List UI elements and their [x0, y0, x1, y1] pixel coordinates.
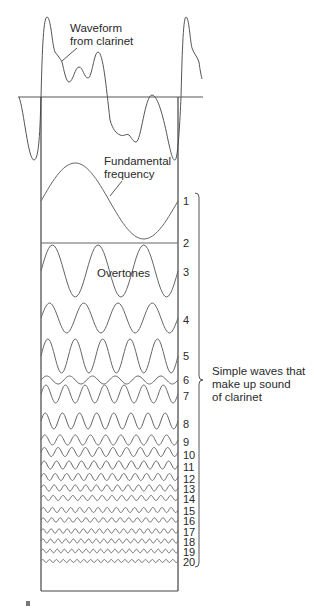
waveform-label-line2: from clarinet — [70, 35, 134, 47]
harmonic-wave-8 — [41, 413, 178, 429]
clarinet-harmonics-diagram: 1234567891011121314151617181920 Waveform… — [0, 0, 314, 608]
harmonic-wave-18 — [41, 539, 178, 543]
harmonic-wave-17 — [41, 529, 178, 533]
harmonic-number-2: 2 — [183, 237, 189, 249]
harmonic-wave-11 — [41, 461, 178, 469]
harmonic-number-1: 1 — [183, 195, 189, 207]
harmonic-wave-12 — [41, 474, 178, 481]
harmonics-bracket — [195, 193, 203, 567]
waveform-leader-line — [62, 48, 77, 61]
fundamental-leader-line — [110, 181, 122, 196]
waveform-label-line1: Waveform — [70, 22, 122, 34]
fundamental-label-line2: frequency — [104, 168, 155, 180]
harmonic-number-10: 10 — [183, 449, 195, 461]
overtones-label: Overtones — [97, 267, 150, 279]
harmonic-number-4: 4 — [183, 314, 189, 326]
harmonic-waves — [41, 163, 178, 563]
harmonic-number-6: 6 — [183, 374, 189, 386]
bracket-label-line1: Simple waves that — [212, 365, 306, 377]
harmonic-number-8: 8 — [183, 418, 189, 430]
fundamental-label-line1: Fundamental — [104, 155, 171, 167]
harmonic-number-9: 9 — [183, 436, 189, 448]
harmonic-wave-9 — [41, 435, 178, 445]
harmonic-number-11: 11 — [183, 461, 194, 473]
harmonic-wave-5 — [41, 339, 178, 373]
harmonic-wave-14 — [41, 496, 178, 501]
harmonic-wave-4 — [41, 303, 178, 333]
harmonic-number-labels: 1234567891011121314151617181920 — [183, 195, 195, 568]
harmonic-number-3: 3 — [183, 266, 189, 278]
harmonic-number-20: 20 — [183, 556, 195, 568]
harmonic-wave-16 — [41, 518, 178, 522]
harmonic-wave-15 — [41, 508, 178, 513]
harmonic-wave-10 — [41, 448, 178, 457]
harmonic-wave-20 — [41, 560, 178, 563]
harmonic-number-7: 7 — [183, 390, 189, 402]
harmonic-number-5: 5 — [183, 350, 189, 362]
harmonic-wave-7 — [41, 385, 178, 403]
harmonic-wave-13 — [41, 485, 178, 491]
harmonic-number-14: 14 — [183, 493, 195, 505]
bracket-label-line2: make up sound — [212, 378, 291, 390]
harmonic-wave-6 — [41, 376, 178, 384]
figure-marker-square — [26, 601, 30, 606]
harmonic-wave-19 — [41, 549, 178, 553]
bracket-label-line3: of clarinet — [212, 391, 263, 403]
